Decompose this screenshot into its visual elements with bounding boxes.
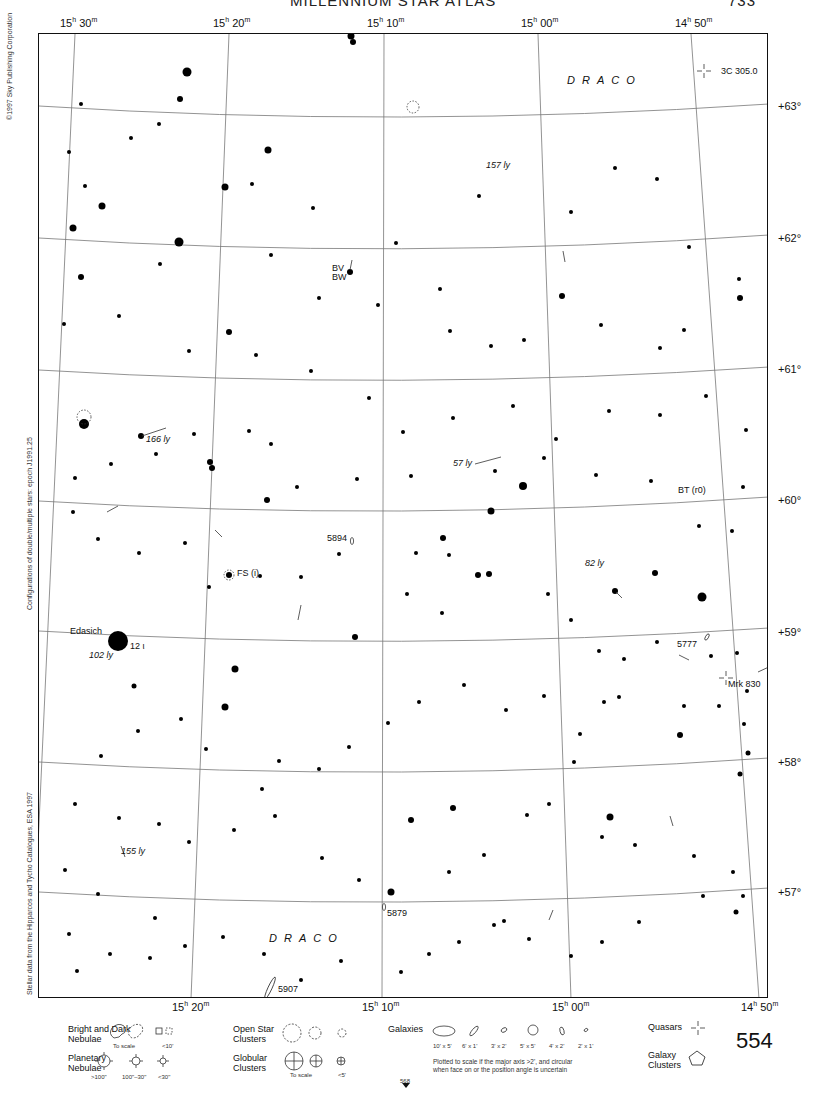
variable-star-label[interactable]: FS (i)	[237, 568, 259, 578]
star	[502, 919, 506, 923]
dec-label-5: +58°	[778, 756, 801, 768]
galaxy-cluster-icon	[687, 1049, 707, 1067]
variable-star-label[interactable]: BW	[332, 272, 347, 282]
star	[735, 651, 739, 655]
star	[67, 932, 71, 936]
star	[744, 428, 748, 432]
star	[137, 551, 141, 555]
star	[386, 721, 390, 725]
star	[388, 889, 395, 896]
star	[417, 700, 421, 704]
star	[339, 959, 343, 963]
star	[99, 203, 106, 210]
star	[522, 338, 526, 342]
distance-label[interactable]: 157 ly	[486, 160, 510, 170]
star	[157, 122, 161, 126]
quasar-label[interactable]: Mrk 830	[728, 679, 761, 689]
star	[687, 245, 691, 249]
dec-label-3: +60°	[778, 494, 801, 506]
star	[486, 571, 492, 577]
star	[347, 745, 351, 749]
star	[132, 684, 137, 689]
star	[394, 241, 398, 245]
legend-globular-scale: To scale	[290, 1070, 312, 1080]
star	[578, 732, 582, 736]
legend-globular-title: Globular	[233, 1053, 267, 1063]
star	[731, 870, 735, 874]
star	[183, 68, 192, 77]
star	[569, 618, 573, 622]
star	[704, 394, 708, 398]
star	[367, 396, 371, 400]
star	[692, 854, 696, 858]
ra-label-bottom-3: 14h 50m	[741, 1000, 778, 1013]
star	[187, 349, 191, 353]
star	[633, 843, 637, 847]
galaxy-label[interactable]: 5894	[327, 533, 347, 543]
star	[337, 552, 341, 556]
star	[320, 856, 324, 860]
quasar-icon	[690, 1020, 706, 1036]
galaxy-label[interactable]: 5907	[278, 984, 298, 994]
star	[187, 840, 191, 844]
distance-label[interactable]: 166 ly	[146, 434, 170, 444]
atlas-title: MILLENNIUM STAR ATLAS	[290, 0, 496, 9]
legend-globular-subtitle: Clusters	[233, 1063, 267, 1073]
galaxy-note-line2: when face on or the position angle is un…	[433, 1066, 572, 1074]
star	[109, 462, 113, 466]
legend-globular-small: <5'	[338, 1070, 346, 1080]
star	[655, 640, 659, 644]
star	[440, 535, 446, 541]
legend-clusters-subtitle: Clusters	[648, 1060, 681, 1070]
star	[179, 717, 183, 721]
star	[569, 210, 573, 214]
star	[698, 593, 707, 602]
star	[78, 274, 84, 280]
star	[559, 293, 565, 299]
distance-label[interactable]: 102 ly	[89, 650, 113, 660]
star	[547, 802, 551, 806]
galaxy-label[interactable]: 5879	[387, 908, 407, 918]
star	[79, 419, 89, 429]
star	[617, 695, 621, 699]
star	[265, 147, 272, 154]
star	[408, 817, 414, 823]
bayer-label[interactable]: 12 ι	[130, 641, 145, 651]
galaxy-size-1: 6' x 1'	[462, 1041, 477, 1051]
ra-label-bottom-0: 15h 20m	[172, 1000, 209, 1013]
star	[658, 346, 662, 350]
variable-star-label[interactable]: BT (r0)	[678, 485, 706, 495]
ra-label-top-3: 15h 00m	[521, 16, 558, 29]
star	[709, 654, 713, 658]
distance-label[interactable]: 82 ly	[585, 558, 604, 568]
stars	[62, 34, 751, 982]
star	[117, 816, 121, 820]
galaxy-label[interactable]: 5777	[677, 639, 697, 649]
star-chart[interactable]: DRACODRACO3C 305.0157 lyBVBW166 ly57 lyB…	[38, 33, 768, 998]
star	[519, 482, 527, 490]
star	[745, 689, 749, 693]
star	[492, 923, 496, 927]
ra-label-bottom-2: 15h 00m	[552, 1000, 589, 1013]
ra-label-top-0: 15h 30m	[60, 16, 97, 29]
star-name-label[interactable]: Edasich	[70, 626, 102, 636]
down-arrow-icon[interactable]	[402, 1083, 410, 1088]
star	[70, 225, 77, 232]
star	[554, 437, 558, 441]
star	[183, 541, 187, 545]
distance-label[interactable]: 155 ly	[121, 846, 145, 856]
star	[75, 969, 79, 973]
star	[414, 551, 418, 555]
stellar-data-note: Stellar data from the Hipparcos and Tych…	[26, 792, 33, 995]
dec-label-2: +61°	[778, 363, 801, 375]
star	[677, 732, 683, 738]
star	[542, 456, 546, 460]
legend-open-clusters: Open Star Clusters	[233, 1024, 274, 1044]
star	[489, 344, 493, 348]
star	[350, 39, 356, 45]
star	[697, 524, 701, 528]
galaxy-size-5: 2' x 1'	[578, 1041, 593, 1051]
distance-label[interactable]: 57 ly	[453, 458, 472, 468]
quasar-label[interactable]: 3C 305.0	[721, 66, 758, 76]
star	[153, 916, 157, 920]
